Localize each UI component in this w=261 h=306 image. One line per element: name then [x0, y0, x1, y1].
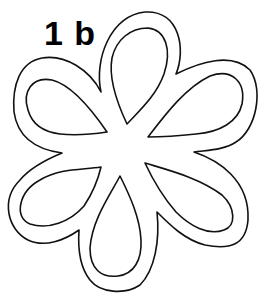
petal-upper-left — [26, 79, 107, 134]
petal-bottom — [90, 176, 141, 276]
flower-outer-outline — [8, 12, 257, 291]
petal-lower-left — [20, 167, 101, 226]
petal-top — [111, 28, 167, 124]
flower-outline-drawing — [0, 0, 261, 306]
petal-upper-right — [148, 74, 243, 137]
